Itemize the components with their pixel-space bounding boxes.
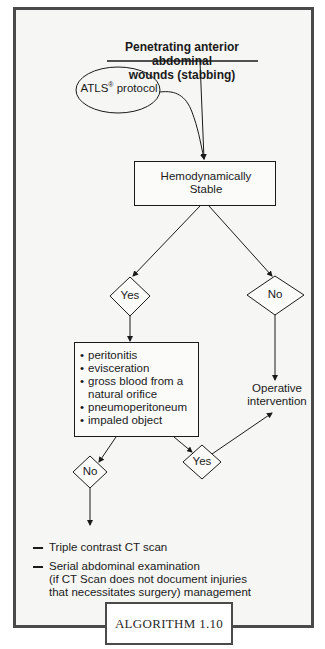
decision-findings-yes: Yes bbox=[182, 455, 222, 468]
finding-item: gross blood from a natural orifice bbox=[80, 375, 200, 401]
title-line-2: wounds (stabbing) bbox=[97, 68, 267, 82]
atls-label: ATLS bbox=[80, 82, 108, 94]
finding-item: peritonitis bbox=[80, 349, 200, 362]
finding-item: impaled object bbox=[80, 414, 200, 427]
operative-line-2: intervention bbox=[244, 395, 310, 408]
finding-item: pneumoperitoneum bbox=[80, 401, 200, 414]
operative-line-1: Operative bbox=[244, 382, 310, 395]
management-note-line-1: (if CT Scan does not document injuries bbox=[49, 573, 293, 586]
management-item-1-text: Triple contrast CT scan bbox=[49, 541, 167, 553]
management-item-serial-exam: Serial abdominal examination (if CT Scan… bbox=[33, 560, 293, 599]
protocol-suffix: protocol bbox=[113, 82, 157, 94]
hemodynamic-line-1: Hemodynamically bbox=[136, 170, 276, 183]
hemodynamically-stable-node: Hemodynamically Stable bbox=[136, 170, 276, 196]
decision-stable-yes: Yes bbox=[110, 289, 150, 302]
operative-intervention-node: Operative intervention bbox=[244, 382, 310, 408]
dash-bullet-icon bbox=[33, 547, 43, 549]
management-item-ct: Triple contrast CT scan bbox=[33, 541, 293, 554]
management-note-line-2: that necessitates surgery) management bbox=[49, 586, 293, 599]
algorithm-caption: ALGORITHM 1.10 bbox=[105, 602, 233, 645]
findings-list: peritonitis evisceration gross blood fro… bbox=[80, 349, 200, 427]
algorithm-title: Penetrating anterior abdominal wounds (s… bbox=[97, 40, 267, 82]
decision-stable-no: No bbox=[255, 288, 295, 301]
finding-item: evisceration bbox=[80, 362, 200, 375]
decision-findings-no: No bbox=[70, 465, 110, 478]
management-list: Triple contrast CT scan Serial abdominal… bbox=[33, 541, 293, 605]
dash-bullet-icon bbox=[33, 566, 43, 568]
hemodynamic-line-2: Stable bbox=[136, 183, 276, 196]
management-item-2-text: Serial abdominal examination bbox=[49, 560, 293, 573]
title-line-1: Penetrating anterior abdominal bbox=[97, 40, 267, 68]
atls-protocol-node: ATLS® protocol bbox=[78, 82, 160, 95]
